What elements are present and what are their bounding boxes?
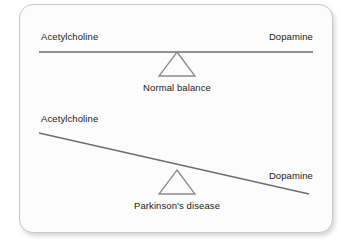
label-dopamine-parkinsons: Dopamine bbox=[269, 170, 313, 181]
caption-parkinsons-disease: Parkinson's disease bbox=[134, 200, 220, 211]
label-acetylcholine-parkinsons: Acetylcholine bbox=[41, 113, 98, 124]
figure-root: Delmar/Cengage Learning Acetylcholine Do… bbox=[0, 0, 341, 243]
caption-normal-balance: Normal balance bbox=[143, 82, 211, 93]
label-dopamine-normal: Dopamine bbox=[269, 31, 313, 42]
label-acetylcholine-normal: Acetylcholine bbox=[41, 31, 98, 42]
